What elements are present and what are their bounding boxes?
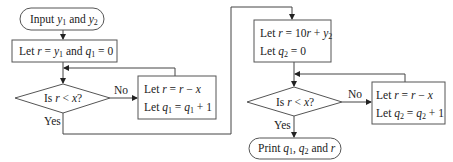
connectors <box>63 7 405 137</box>
loop1-line2: Let q1 = q1 + 1 <box>144 101 212 115</box>
flowchart: Input y1 and y2 Let r = y1 and q1 = 0 Is… <box>0 0 453 162</box>
decision2-label: Is r < x? <box>276 96 314 108</box>
init1-box: Let r = y1 and q1 = 0 <box>12 40 117 62</box>
decision1-yes-label: Yes <box>44 115 61 127</box>
decision2-yes-label: Yes <box>274 119 291 131</box>
decision1-no-label: No <box>114 84 128 96</box>
init2-line2: Let q2 = 0 <box>260 45 306 59</box>
loop2-box: Let r = r − x Let q2 = q2 + 1 <box>372 82 445 124</box>
loop1-box: Let r = r − x Let q1 = q1 + 1 <box>138 76 216 119</box>
decision1: Is r < x? No Yes <box>15 84 128 127</box>
input-terminator: Input y1 and y2 <box>20 8 104 30</box>
output-label: Print q1, q2 and r <box>258 142 336 156</box>
init1-label: Let r = y1 and q1 = 0 <box>19 45 113 59</box>
loop1-line1: Let r = r − x <box>144 83 202 95</box>
decision2: Is r < x? No Yes <box>247 87 362 131</box>
init2-line1: Let r = 10r + y2 <box>260 27 332 41</box>
arrow-loop2-back <box>295 74 405 82</box>
decision2-no-label: No <box>348 88 362 100</box>
decision1-label: Is r < x? <box>44 92 82 104</box>
arrow-loop1-back <box>64 68 175 76</box>
output-terminator: Print q1, q2 and r <box>249 138 341 159</box>
loop2-line1: Let r = r − x <box>376 89 434 101</box>
loop2-line2: Let q2 = q2 + 1 <box>376 107 444 121</box>
init2-box: Let r = 10r + y2 Let q2 = 0 <box>254 20 332 62</box>
